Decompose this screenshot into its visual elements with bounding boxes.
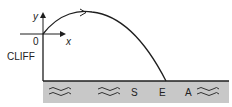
- cliff-label: CLIFF: [7, 51, 35, 62]
- direction-arrow-icon: [80, 9, 86, 16]
- y-axis-arrow-icon: [40, 12, 46, 18]
- projectile-diagram: S E A y x 0 CLIFF: [0, 0, 232, 107]
- y-axis-label: y: [32, 11, 39, 22]
- sea-letter-e: E: [159, 87, 166, 98]
- x-axis-label: x: [65, 36, 72, 47]
- sea-letter-s: S: [131, 87, 138, 98]
- origin-label: 0: [33, 36, 39, 47]
- sea-letter-a: A: [185, 87, 192, 98]
- trajectory-curve: [43, 11, 166, 81]
